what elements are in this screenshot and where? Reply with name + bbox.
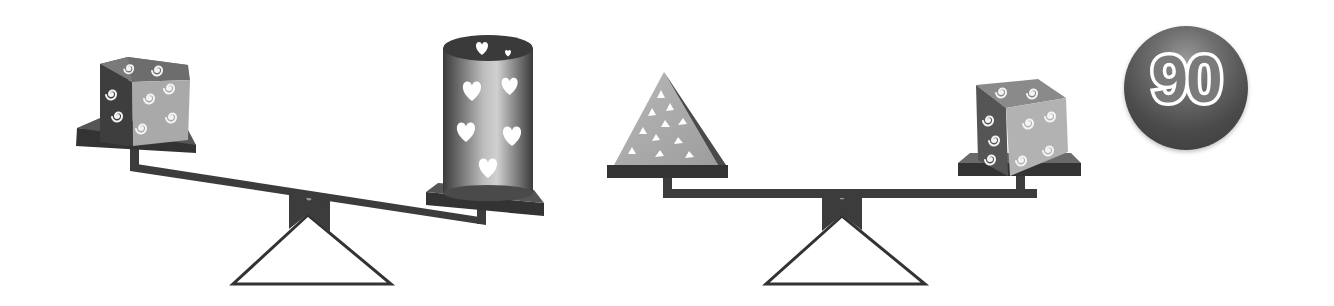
left-pan — [607, 165, 728, 178]
scale-left — [76, 35, 544, 284]
fulcrum-triangle — [233, 215, 391, 284]
puzzle-number: 90 — [1151, 46, 1220, 112]
heart-cylinder-icon — [443, 35, 533, 201]
scale-right — [607, 72, 1081, 284]
puzzle-number-badge: 90 — [1124, 26, 1248, 150]
right-stem — [1016, 175, 1025, 195]
beam — [663, 189, 1037, 198]
fulcrum-triangle — [766, 216, 925, 284]
left-stem — [663, 176, 672, 196]
triangle-pyramid-icon — [614, 72, 726, 165]
swirl-cube-icon — [100, 57, 190, 146]
